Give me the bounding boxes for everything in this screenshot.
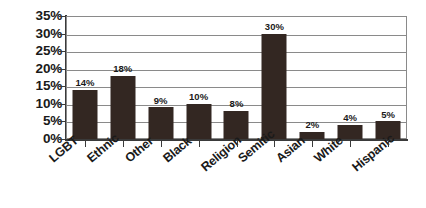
y-tick-mark <box>59 51 66 52</box>
y-tick-mark <box>59 121 66 122</box>
x-category-label: Semitic <box>236 128 277 165</box>
x-tick-mark <box>312 140 313 147</box>
x-category-label: Asian <box>274 134 307 165</box>
x-category-label: Ethnic <box>85 132 121 165</box>
x-tick-mark <box>161 140 162 147</box>
y-tick-mark <box>59 86 66 87</box>
x-tick-mark <box>388 140 389 147</box>
bar-chart: 0%5%10%15%20%25%30%35% 14%18%9%10%8%30%2… <box>0 0 426 208</box>
x-tick-mark <box>199 140 200 147</box>
x-category-label: Hispanic <box>350 132 397 174</box>
x-tick-mark <box>123 140 124 147</box>
x-tick-mark <box>350 140 351 147</box>
x-tick-mark <box>85 140 86 147</box>
y-tick-mark <box>59 34 66 35</box>
y-tick-mark <box>59 16 66 17</box>
y-tick-mark <box>59 69 66 70</box>
y-tick-mark <box>59 139 66 140</box>
x-category-label: White <box>312 134 345 165</box>
x-category-label: Other <box>123 135 156 165</box>
x-category-label: Black <box>161 135 194 165</box>
x-tick-mark <box>237 140 238 147</box>
x-tick-mark <box>274 140 275 147</box>
y-tick-mark <box>59 104 66 105</box>
